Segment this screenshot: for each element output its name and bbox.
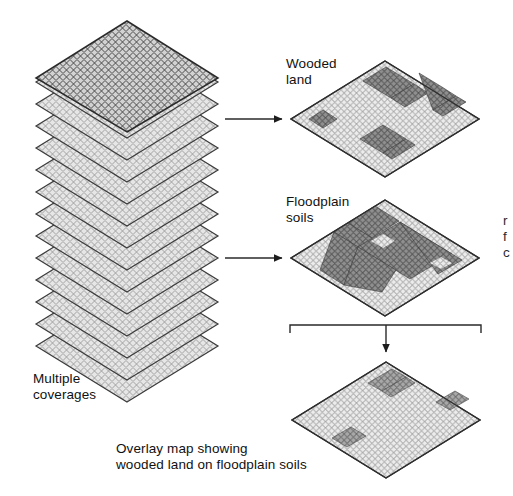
overlay-map bbox=[292, 362, 480, 478]
clipped-margin-text: r f c bbox=[503, 213, 510, 261]
label-floodplain-soils: Floodplain soils bbox=[286, 194, 349, 226]
label-wooded-land: Wooded land bbox=[286, 56, 337, 88]
gis-overlay-diagram: Wooded land Floodplain soils Multiple co… bbox=[0, 0, 513, 496]
caption-overlay-map: Overlay map showing wooded land on flood… bbox=[116, 441, 307, 473]
multiple-coverages-stack bbox=[36, 21, 218, 402]
diagram-canvas bbox=[0, 0, 513, 496]
label-multiple-coverages: Multiple coverages bbox=[33, 371, 96, 403]
